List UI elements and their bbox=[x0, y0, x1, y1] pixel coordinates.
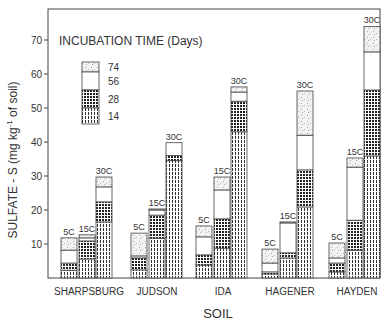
bars: 5C15C30C5C15C30C5C15C30C5C15C30C5C15C30C bbox=[61, 15, 381, 278]
bar-judson-30c: 30C bbox=[166, 132, 183, 278]
bar-temp-label: 15C bbox=[214, 166, 231, 176]
bar-segment-28 bbox=[214, 219, 230, 248]
bar-segment-74 bbox=[131, 233, 147, 256]
legend-swatch-56 bbox=[82, 72, 99, 90]
bar-segment-74 bbox=[61, 238, 77, 250]
bar-temp-label: 30C bbox=[96, 166, 113, 176]
bar-segment-56 bbox=[79, 238, 95, 241]
legend-swatch-28 bbox=[82, 90, 99, 108]
bar-sharpsburg-5c: 5C bbox=[61, 227, 77, 278]
bar-segment-74 bbox=[231, 87, 247, 92]
bar-segment-74 bbox=[297, 91, 313, 135]
bar-segment-28 bbox=[96, 202, 112, 222]
bar-segment-56 bbox=[196, 237, 212, 255]
bar-segment-74 bbox=[79, 235, 95, 238]
x-tick-label-ida: IDA bbox=[215, 286, 232, 297]
bar-segment-74 bbox=[196, 226, 212, 237]
bar-segment-14 bbox=[196, 265, 212, 278]
bar-segment-14 bbox=[329, 272, 345, 278]
bar-judson-5c: 5C bbox=[131, 222, 147, 278]
bar-temp-label: 30C bbox=[166, 132, 183, 142]
bar-temp-label: 15C bbox=[79, 224, 96, 234]
bar-temp-label: 30C bbox=[364, 15, 381, 25]
bar-temp-label: 15C bbox=[149, 198, 166, 208]
bar-temp-label: 5C bbox=[331, 232, 343, 242]
bar-temp-label: 30C bbox=[297, 80, 314, 90]
bar-segment-74 bbox=[214, 177, 230, 190]
bar-segment-14 bbox=[297, 207, 313, 278]
x-tick-label-hagener: HAGENER bbox=[265, 286, 314, 297]
bar-sharpsburg-30c: 30C bbox=[96, 166, 113, 278]
bar-segment-28 bbox=[297, 170, 313, 207]
x-axis-labels: SHARPSBURGJUDSONIDAHAGENERHAYDEN bbox=[54, 286, 377, 297]
legend-swatch-14 bbox=[82, 108, 99, 124]
bar-hayden-5c: 5C bbox=[329, 232, 345, 278]
y-axis: 10203040506070 bbox=[31, 35, 48, 250]
legend-label-14: 14 bbox=[108, 111, 120, 122]
legend-swatches: 74562814 bbox=[82, 62, 120, 124]
y-tick-label: 20 bbox=[31, 205, 43, 216]
y-tick-label: 10 bbox=[31, 239, 43, 250]
bar-judson-15c: 15C bbox=[149, 198, 166, 278]
bar-segment-56 bbox=[262, 263, 278, 272]
legend-swatch-74 bbox=[82, 62, 99, 72]
bar-segment-74 bbox=[329, 243, 345, 258]
bar-segment-28 bbox=[166, 156, 182, 161]
bar-segment-74 bbox=[96, 177, 112, 187]
bar-segment-74 bbox=[347, 158, 363, 167]
bar-temp-label: 15C bbox=[347, 147, 364, 157]
bar-segment-74 bbox=[364, 26, 380, 52]
bar-segment-28 bbox=[131, 258, 147, 270]
bar-segment-74 bbox=[262, 249, 278, 263]
y-tick-label: 40 bbox=[31, 137, 43, 148]
bar-segment-14 bbox=[214, 248, 230, 278]
bar-temp-label: 5C bbox=[264, 238, 276, 248]
bar-segment-56 bbox=[231, 92, 247, 101]
x-tick-label-sharpsburg: SHARPSBURG bbox=[54, 286, 124, 297]
x-tick-label-judson: JUDSON bbox=[136, 286, 177, 297]
bar-segment-14 bbox=[61, 270, 77, 278]
bar-segment-14 bbox=[262, 274, 278, 278]
bar-hagener-5c: 5C bbox=[262, 238, 278, 278]
bar-segment-56 bbox=[364, 52, 380, 90]
bar-segment-14 bbox=[96, 222, 112, 278]
y-tick-label: 60 bbox=[31, 69, 43, 80]
legend-label-56: 56 bbox=[108, 76, 120, 87]
bar-segment-28 bbox=[196, 255, 212, 265]
bar-hayden-15c: 15C bbox=[347, 147, 364, 278]
bar-hagener-15c: 15C bbox=[280, 211, 297, 278]
bar-segment-28 bbox=[280, 253, 296, 258]
y-tick-label: 70 bbox=[31, 35, 43, 46]
bar-segment-14 bbox=[79, 259, 95, 278]
bar-ida-30c: 30C bbox=[231, 76, 248, 278]
bar-segment-14 bbox=[131, 270, 147, 278]
bar-segment-14 bbox=[149, 238, 165, 278]
legend-title: INCUBATION TIME (Days) bbox=[59, 34, 203, 48]
legend: INCUBATION TIME (Days) 74562814 bbox=[59, 34, 203, 124]
bar-segment-74 bbox=[149, 209, 165, 210]
bar-segment-56 bbox=[280, 223, 296, 253]
bar-hagener-30c: 30C bbox=[297, 80, 314, 278]
legend-label-28: 28 bbox=[108, 94, 120, 105]
bar-segment-28 bbox=[79, 241, 95, 259]
x-tick-label-hayden: HAYDEN bbox=[337, 286, 378, 297]
legend-label-74: 74 bbox=[108, 62, 120, 73]
bar-segment-28 bbox=[231, 101, 247, 132]
bar-segment-28 bbox=[61, 263, 77, 270]
bar-segment-28 bbox=[347, 220, 363, 250]
y-tick-label: 30 bbox=[31, 171, 43, 182]
bar-sharpsburg-15c: 15C bbox=[79, 224, 96, 278]
bar-segment-56 bbox=[214, 190, 230, 219]
bar-segment-56 bbox=[166, 143, 182, 156]
bar-hayden-30c: 30C bbox=[364, 15, 381, 278]
bar-segment-14 bbox=[166, 161, 182, 278]
bar-ida-5c: 5C bbox=[196, 215, 212, 278]
bar-segment-56 bbox=[347, 167, 363, 220]
bar-segment-14 bbox=[347, 250, 363, 278]
y-tick-label: 50 bbox=[31, 103, 43, 114]
stacked-bar-chart: 10203040506070 SULFATE - S (mg kg-1 of s… bbox=[0, 0, 391, 322]
bar-segment-14 bbox=[231, 132, 247, 278]
bar-segment-14 bbox=[280, 258, 296, 278]
bar-segment-56 bbox=[96, 187, 112, 202]
bar-segment-74 bbox=[280, 222, 296, 223]
